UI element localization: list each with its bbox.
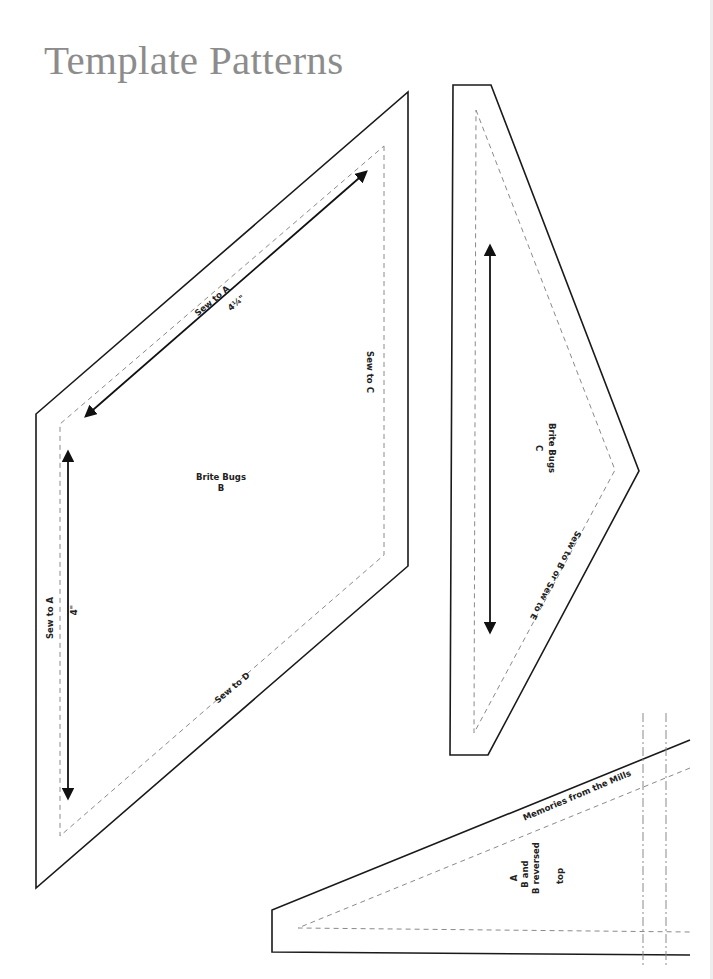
template-c-seam-line [474, 110, 615, 733]
template-b-edge-label-top: Sew to A [193, 283, 232, 318]
template-b-vertical-measure: 4" [69, 605, 79, 615]
template-b-edge-label-right: Sew to C [365, 351, 375, 393]
template-a-note: top [555, 868, 565, 884]
template-a-name: Memories from the Mills [521, 768, 632, 823]
template-sheet: Sew to A 4¼" Sew to C Brite Bugs B Sew t… [0, 0, 713, 979]
template-b-name: Brite Bugs [196, 472, 246, 482]
template-b: Sew to A 4¼" Sew to C Brite Bugs B Sew t… [36, 92, 408, 888]
template-b-edge-label-left: Sew to A [45, 597, 55, 640]
template-a-line-2: B and [520, 860, 530, 887]
template-a: Memories from the Mills A B and B revers… [272, 713, 690, 965]
template-b-letter: B [218, 483, 224, 493]
template-a-line-1: A [509, 874, 519, 881]
template-b-edge-label-bottom: Sew to D [213, 670, 252, 705]
template-c-edge-label-lower: Sew to B or Sew to E [528, 529, 584, 622]
template-c-cut-line [450, 85, 639, 755]
template-c: Brite Bugs C Sew to B or Sew to E [450, 85, 639, 755]
template-c-name: Brite Bugs [547, 423, 557, 473]
template-a-line-3: B reversed [531, 842, 541, 894]
template-b-diagonal-measure: 4¼" [226, 293, 247, 313]
template-a-seam-line [298, 768, 690, 932]
template-c-letter: C [534, 445, 544, 451]
